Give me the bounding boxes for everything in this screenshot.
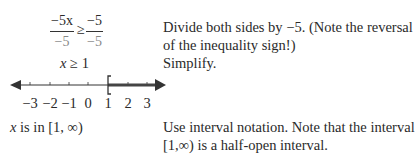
- step3-explanation-line2: [1,∞) is a half-open interval.: [163, 138, 328, 153]
- relation-ge: ≥: [70, 55, 78, 71]
- simplified-inequality: x ≥ 1: [60, 56, 89, 71]
- tick-label: −3: [22, 95, 37, 111]
- value-one: 1: [82, 55, 89, 71]
- relation-sign: ≥: [77, 22, 85, 37]
- tick-label: −2: [42, 95, 57, 111]
- tick-label: −1: [61, 95, 76, 111]
- fraction-right-numerator: −5: [86, 13, 103, 32]
- step1-explanation-line1: Divide both sides by −5. (Note the rever…: [163, 20, 413, 35]
- interval-text: is in [1, ∞): [16, 119, 82, 135]
- tick-label: 1: [104, 95, 111, 111]
- tick-label: 0: [84, 95, 91, 111]
- tick-label: 2: [124, 95, 131, 111]
- right-arrow-icon: [155, 79, 166, 91]
- step3-explanation-line1: Use interval notation. Note that the int…: [163, 120, 415, 135]
- fraction-left-numerator: −5x: [50, 13, 74, 32]
- interval-statement: x is in [1, ∞): [10, 120, 83, 135]
- tick-label: 3: [143, 95, 150, 111]
- fraction-right: −5 −5: [86, 13, 103, 50]
- step2-explanation: Simplify.: [163, 56, 216, 71]
- number-line: −3 −2 −1 0 1 2 3: [0, 74, 180, 114]
- variable-x: x: [60, 55, 66, 71]
- step1-explanation-line2: of the inequality sign!): [163, 38, 295, 53]
- fraction-left-denominator: −5: [55, 32, 70, 50]
- fraction-left: −5x −5: [50, 13, 74, 50]
- fraction-right-denominator: −5: [87, 32, 102, 50]
- left-arrow-icon: [10, 80, 21, 90]
